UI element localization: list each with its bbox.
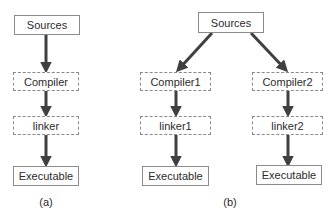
- arrow-sources-to-compiler2: [251, 33, 285, 69]
- node-b-executable2: Executable: [256, 165, 322, 185]
- arrow-sources-to-compiler1: [179, 33, 212, 69]
- node-b-linker2: linker2: [252, 116, 323, 135]
- node-b-linker1: linker1: [140, 116, 211, 135]
- node-a-linker: linker: [13, 116, 79, 135]
- node-a-sources: Sources: [14, 15, 80, 35]
- node-b-compiler1: Compiler1: [140, 72, 211, 91]
- node-b-executable1: Executable: [142, 166, 209, 186]
- node-a-executable: Executable: [13, 166, 79, 186]
- node-a-compiler: Compiler: [13, 72, 79, 91]
- caption-a: (a): [30, 196, 62, 208]
- node-b-compiler2: Compiler2: [252, 72, 323, 91]
- node-b-sources: Sources: [198, 12, 264, 33]
- caption-b: (b): [214, 196, 246, 208]
